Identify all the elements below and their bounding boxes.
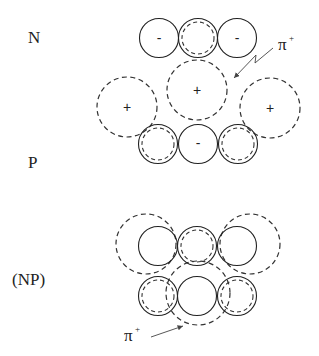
- quark-circle: [219, 125, 258, 164]
- quark-circle: [139, 277, 178, 316]
- np-composite: [116, 214, 280, 325]
- inner-dashed-circle: [181, 230, 213, 262]
- quark-circle: [139, 227, 178, 266]
- pion-cloud: + + +: [97, 60, 300, 138]
- quark-circle: [218, 227, 257, 266]
- quark-circle: [179, 19, 218, 58]
- pion-charge: +: [289, 33, 294, 43]
- pion-dashed-circle: [220, 214, 280, 274]
- pion-dashed-circle: [116, 214, 176, 274]
- pion-charge: +: [135, 324, 140, 334]
- inner-dashed-circle: [182, 22, 214, 54]
- inner-dashed-circle: [142, 128, 174, 160]
- pion-symbol: π: [124, 326, 133, 345]
- minus-sign: -: [157, 30, 162, 46]
- pion-arrow-bottom: π +: [124, 324, 183, 345]
- pion-arrow-top: π +: [234, 33, 294, 78]
- nucleon-diagram: - - + + + π + -: [0, 0, 319, 356]
- quark-circle: [139, 125, 178, 164]
- quark-circle: [178, 227, 217, 266]
- minus-sign: -: [235, 30, 240, 46]
- quark-circle: [178, 277, 217, 316]
- proton-quark-row: -: [139, 125, 258, 164]
- arrow-icon: [151, 326, 183, 337]
- minus-sign: -: [196, 135, 201, 151]
- plus-sign: +: [193, 82, 201, 98]
- quark-circle: [218, 277, 257, 316]
- neutron-quark-row: - -: [140, 19, 257, 58]
- plus-sign: +: [266, 100, 274, 116]
- pion-symbol: π: [278, 35, 287, 54]
- inner-dashed-circle: [222, 128, 254, 160]
- inner-dashed-circle: [221, 280, 253, 312]
- zigzag-arrow-icon: [234, 48, 273, 78]
- plus-sign: +: [123, 99, 131, 115]
